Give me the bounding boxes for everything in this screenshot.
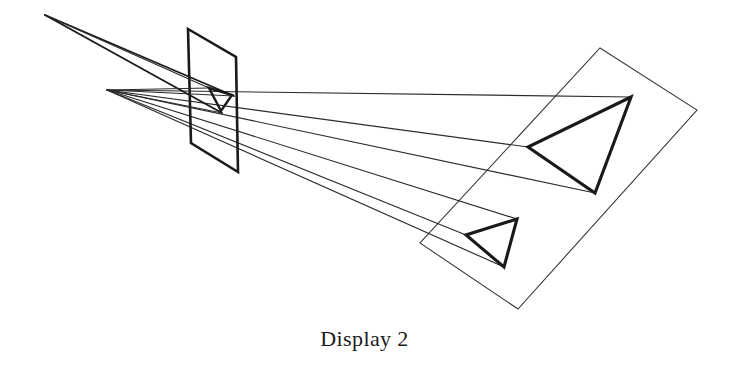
figure-container: Display 2: [0, 0, 729, 365]
projection-diagram: [0, 0, 729, 365]
diagram-background: [0, 0, 729, 365]
figure-caption: Display 2: [0, 326, 729, 352]
